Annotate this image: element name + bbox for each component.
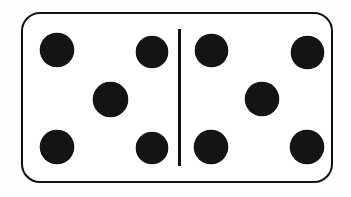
right-half-pip-bottom-left — [194, 130, 228, 164]
right-half-pip-top-right — [291, 36, 324, 69]
right-half-pip-top-left — [195, 34, 228, 67]
domino-scene — [0, 0, 351, 197]
right-half-pip-center — [245, 82, 279, 116]
right-half-pip-bottom-right — [290, 130, 324, 164]
left-half-pip-top-left — [40, 33, 74, 67]
left-half-pip-bottom-left — [40, 130, 74, 164]
left-half-pip-center — [93, 82, 128, 117]
left-half-pip-bottom-right — [136, 132, 168, 164]
left-half-pip-top-right — [136, 36, 168, 68]
